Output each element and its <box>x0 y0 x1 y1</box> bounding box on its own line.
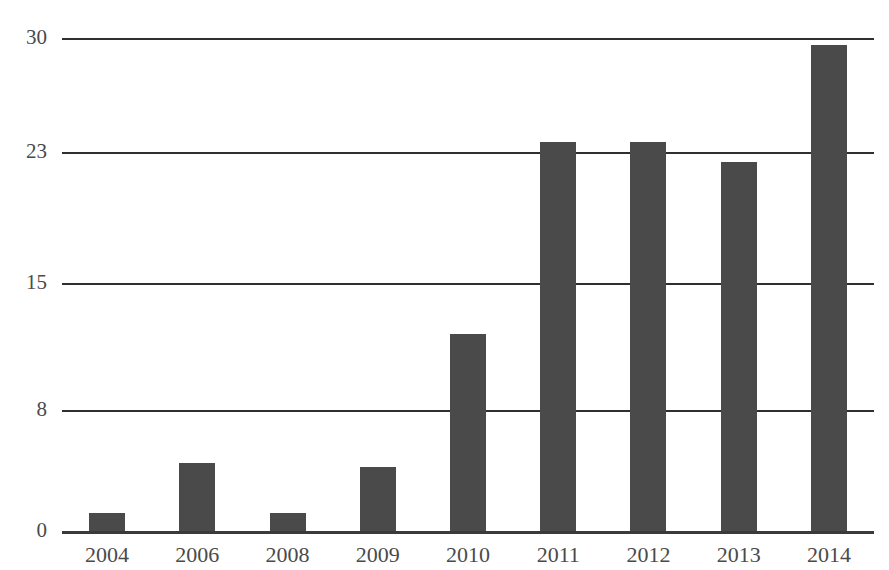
bar <box>89 513 125 531</box>
x-axis-tick-label: 2010 <box>423 544 513 566</box>
bar <box>630 142 666 531</box>
bar <box>360 467 396 531</box>
bar-chart-figure: 30231580 2004200620082009201020112012201… <box>0 0 889 570</box>
y-axis-tick-label: 8 <box>1 399 47 420</box>
x-axis-tick-label: 2011 <box>513 544 603 566</box>
gridline <box>62 152 874 154</box>
x-axis-tick-label: 2013 <box>694 544 784 566</box>
x-axis-tick-label: 2006 <box>152 544 242 566</box>
bar <box>540 142 576 531</box>
x-axis-baseline <box>62 531 874 534</box>
y-axis-tick-label: 30 <box>1 27 47 48</box>
bar <box>270 513 306 531</box>
gridline <box>62 38 874 40</box>
x-axis-tick-label: 2008 <box>242 544 332 566</box>
y-axis-tick-label: 23 <box>1 141 47 162</box>
bar <box>811 45 847 531</box>
chart-title-container <box>0 0 889 10</box>
x-axis-tick-label: 2009 <box>333 544 423 566</box>
plot-area: 30231580 2004200620082009201020112012201… <box>62 30 874 540</box>
bar <box>179 463 215 531</box>
y-axis-tick-label: 15 <box>1 272 47 293</box>
x-axis-tick-label: 2014 <box>784 544 874 566</box>
y-axis-tick-label: 0 <box>1 520 47 541</box>
bar <box>721 162 757 531</box>
bar <box>450 334 486 531</box>
x-axis-tick-label: 2012 <box>603 544 693 566</box>
x-axis-tick-label: 2004 <box>62 544 152 566</box>
